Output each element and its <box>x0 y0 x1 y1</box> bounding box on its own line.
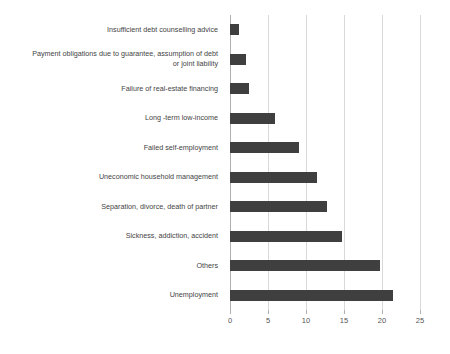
category-label-row: Separation, divorce, death of partner <box>0 192 224 222</box>
category-label-row: Uneconomic household management <box>0 163 224 193</box>
bar-band <box>230 133 420 163</box>
bar-band <box>230 222 420 252</box>
x-axis: 0510152025 <box>230 310 420 334</box>
x-tick-label: 25 <box>416 316 424 325</box>
x-tick-label: 20 <box>378 316 386 325</box>
x-tick-mark <box>268 310 269 314</box>
x-tick-mark <box>306 310 307 314</box>
x-tick-label: 15 <box>340 316 348 325</box>
category-label-row: Sickness, addiction, accident <box>0 222 224 252</box>
category-label: Payment obligations due to guarantee, as… <box>32 49 218 69</box>
bar-band <box>230 192 420 222</box>
category-label: Sickness, addiction, accident <box>126 231 218 241</box>
x-tick-label: 0 <box>228 316 232 325</box>
category-label: Unemployment <box>170 290 218 300</box>
bar-band <box>230 74 420 104</box>
bar[interactable] <box>230 201 327 212</box>
bars-layer <box>230 15 420 310</box>
bar-band <box>230 251 420 281</box>
bar-band <box>230 281 420 311</box>
bar-chart: Insufficient debt counselling advicePaym… <box>0 0 450 354</box>
category-label-row: Unemployment <box>0 281 224 311</box>
category-axis-labels: Insufficient debt counselling advicePaym… <box>0 15 224 310</box>
bar-band <box>230 104 420 134</box>
bar[interactable] <box>230 231 342 242</box>
x-tick-mark <box>382 310 383 314</box>
bar[interactable] <box>230 24 239 35</box>
x-tick-label: 5 <box>266 316 270 325</box>
bar-band <box>230 163 420 193</box>
gridline <box>420 15 421 310</box>
bar[interactable] <box>230 142 299 153</box>
bar[interactable] <box>230 172 317 183</box>
category-label: Failure of real-estate financing <box>121 84 218 94</box>
bar-band <box>230 15 420 45</box>
category-label: Uneconomic household management <box>99 172 218 182</box>
category-label: Others <box>196 261 218 271</box>
category-label: Insufficient debt counselling advice <box>107 25 218 35</box>
x-tick-label: 10 <box>302 316 310 325</box>
category-label-row: Long -term low-income <box>0 104 224 134</box>
category-label-row: Failed self-employment <box>0 133 224 163</box>
category-label-row: Failure of real-estate financing <box>0 74 224 104</box>
category-label: Separation, divorce, death of partner <box>101 202 218 212</box>
x-tick-mark <box>420 310 421 314</box>
bar[interactable] <box>230 54 246 65</box>
category-label: Long -term low-income <box>145 113 218 123</box>
bar-band <box>230 45 420 75</box>
category-label-row: Others <box>0 251 224 281</box>
bar[interactable] <box>230 290 393 301</box>
category-label-row: Payment obligations due to guarantee, as… <box>0 45 224 75</box>
bar[interactable] <box>230 113 275 124</box>
x-tick-mark <box>344 310 345 314</box>
x-tick-mark <box>230 310 231 314</box>
category-label: Failed self-employment <box>144 143 218 153</box>
bar[interactable] <box>230 260 380 271</box>
bar[interactable] <box>230 83 249 94</box>
category-label-row: Insufficient debt counselling advice <box>0 15 224 45</box>
